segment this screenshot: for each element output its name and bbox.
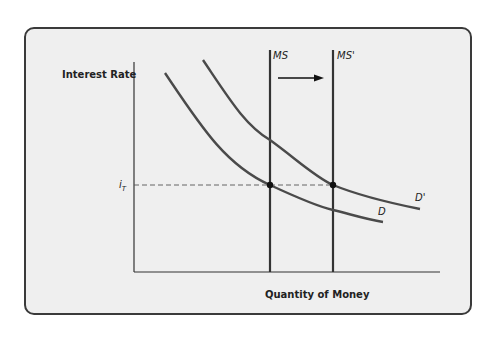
equilibrium-point-ms-d bbox=[267, 182, 273, 188]
x-axis-label: Quantity of Money bbox=[265, 289, 370, 300]
target-rate-label: iT bbox=[119, 179, 127, 193]
ms-label: MS bbox=[273, 50, 289, 61]
d-prime-label: D' bbox=[415, 192, 425, 203]
money-market-diagram: Interest Rate Quantity of Money iT MS MS… bbox=[0, 0, 495, 343]
d-prime-curve bbox=[203, 60, 420, 209]
right-shift-arrow-icon bbox=[278, 75, 324, 82]
y-axis-label: Interest Rate bbox=[62, 69, 137, 80]
d-label: D bbox=[378, 206, 386, 217]
ms-prime-label: MS' bbox=[337, 50, 355, 61]
d-curve bbox=[165, 73, 383, 222]
equilibrium-point-msprime-dprime bbox=[330, 182, 336, 188]
